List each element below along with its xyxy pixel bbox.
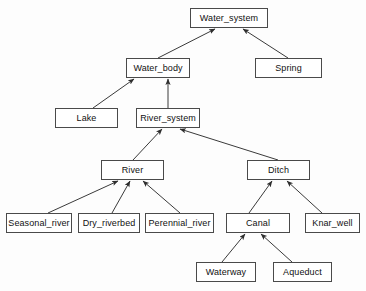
node-lake[interactable]: Lake	[55, 108, 118, 128]
edge-river-to-river_system	[133, 129, 162, 160]
taxonomy-diagram: Water_systemWater_bodySpringLakeRiver_sy…	[0, 0, 366, 291]
edge-ditch-to-river_system	[180, 129, 278, 160]
node-label-water_system: Water_system	[197, 14, 261, 23]
node-dry_riverbed[interactable]: Dry_riverbed	[78, 213, 140, 233]
node-label-river: River	[119, 166, 147, 175]
edge-waterway-to-canal	[222, 234, 245, 262]
edge-canal-to-ditch	[249, 181, 272, 213]
edge-spring-to-water_system	[243, 29, 288, 58]
node-river_system[interactable]: River_system	[136, 108, 200, 128]
edge-seasonal_river-to-river	[48, 181, 118, 213]
node-perennial_river[interactable]: Perennial_river	[145, 213, 214, 233]
edge-knar_well-to-ditch	[287, 181, 322, 213]
node-label-canal: Canal	[243, 219, 273, 228]
node-aqueduct[interactable]: Aqueduct	[273, 262, 332, 282]
node-water_body[interactable]: Water_body	[126, 58, 190, 78]
node-ditch[interactable]: Ditch	[247, 160, 310, 180]
node-spring[interactable]: Spring	[255, 58, 322, 78]
node-label-river_system: River_system	[137, 114, 199, 123]
node-label-knar_well: Knar_well	[309, 219, 355, 228]
edge-dry_riverbed-to-river	[112, 181, 130, 213]
node-river[interactable]: River	[101, 160, 164, 180]
node-label-seasonal_river: Seasonal_river	[5, 219, 72, 228]
node-label-spring: Spring	[272, 64, 305, 73]
edge-aqueduct-to-canal	[261, 234, 292, 262]
node-canal[interactable]: Canal	[226, 213, 290, 233]
edge-perennial_river-to-river	[143, 181, 180, 213]
node-label-waterway: Waterway	[203, 268, 249, 277]
node-label-lake: Lake	[74, 114, 100, 123]
node-label-water_body: Water_body	[130, 64, 185, 73]
node-waterway[interactable]: Waterway	[196, 262, 256, 282]
edge-lake-to-water_body	[93, 79, 134, 108]
node-seasonal_river[interactable]: Seasonal_river	[6, 213, 72, 233]
edge-water_body-to-water_system	[158, 29, 215, 58]
node-label-perennial_river: Perennial_river	[145, 219, 213, 228]
node-label-aqueduct: Aqueduct	[280, 268, 325, 277]
node-label-ditch: Ditch	[265, 166, 292, 175]
node-label-dry_riverbed: Dry_riverbed	[80, 219, 139, 228]
edge-layer	[0, 0, 366, 291]
node-knar_well[interactable]: Knar_well	[305, 213, 360, 233]
node-water_system[interactable]: Water_system	[190, 8, 268, 28]
